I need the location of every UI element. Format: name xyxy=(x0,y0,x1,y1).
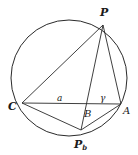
label-pb: Pb xyxy=(73,138,87,152)
label-a: A xyxy=(122,105,130,116)
label-b: B xyxy=(83,108,91,119)
circumcircle xyxy=(11,20,127,136)
segment-c-a xyxy=(22,103,121,104)
label-gamma: γ xyxy=(100,93,106,103)
geometry-diagram: P C A B a γ Pb xyxy=(0,0,138,155)
label-pb-sub: b xyxy=(82,143,87,152)
segment-p-a xyxy=(103,25,121,104)
label-c: C xyxy=(8,100,17,113)
label-p: P xyxy=(99,6,109,19)
segment-c-pb xyxy=(22,103,81,130)
segment-p-c xyxy=(22,25,103,103)
label-side-a: a xyxy=(57,93,62,103)
